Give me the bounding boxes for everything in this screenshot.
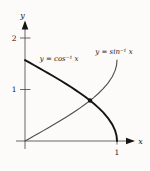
y-axis-label: y <box>19 11 25 20</box>
x-axis-arrow-icon <box>126 138 135 145</box>
y-axis-arrow-icon <box>22 21 29 30</box>
curve-arccos <box>25 60 117 141</box>
curve-label-arcsin: y = sin⁻¹ x <box>94 48 132 56</box>
intersection-dot <box>88 98 92 102</box>
curve-arcsin <box>25 60 117 141</box>
y-tick-label: 1 <box>12 85 17 94</box>
y-tick-label: 2 <box>12 34 17 43</box>
curve-label-arccos: y = cos⁻¹ x <box>39 55 79 63</box>
inverse-trig-figure: xy121y = cos⁻¹ xy = sin⁻¹ x <box>0 0 150 171</box>
x-axis-label: x <box>138 137 143 146</box>
inverse-trig-plot: xy121y = cos⁻¹ xy = sin⁻¹ x <box>0 0 150 171</box>
x-tick-label: 1 <box>115 148 120 157</box>
